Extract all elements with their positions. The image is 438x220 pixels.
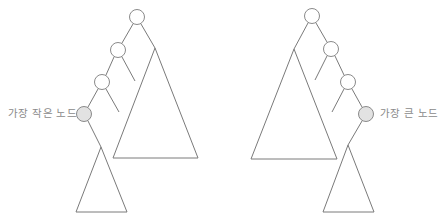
- edge: [316, 23, 327, 42]
- right-tree: [251, 9, 374, 213]
- subtree-triangle: [251, 49, 337, 159]
- edge: [348, 121, 362, 145]
- edge: [335, 56, 344, 75]
- tree-node-root: [130, 10, 145, 25]
- tree-node: [341, 75, 356, 90]
- tree-node-root: [305, 9, 320, 24]
- right-subtree-stub: [106, 89, 119, 112]
- edge: [122, 24, 133, 43]
- left-subtree-stub: [332, 89, 344, 112]
- largest-node: [359, 107, 374, 122]
- left-tree: [76, 10, 198, 213]
- edge: [294, 23, 308, 49]
- right-subtree-stub: [122, 57, 135, 81]
- edge: [106, 57, 114, 75]
- subtree-triangle: [76, 147, 127, 212]
- left-subtree-stub: [315, 56, 327, 80]
- subtree-triangle: [323, 145, 374, 212]
- edge: [88, 121, 101, 147]
- largest-node-label: 가장 큰 노드: [380, 107, 438, 119]
- edge: [352, 89, 362, 107]
- tree-node: [95, 75, 110, 90]
- edge: [88, 89, 98, 107]
- smallest-node: [77, 107, 92, 122]
- smallest-node-label: 가장 작은 노드: [8, 107, 77, 119]
- edge: [141, 24, 155, 48]
- tree-node: [111, 43, 126, 58]
- tree-node: [324, 42, 339, 57]
